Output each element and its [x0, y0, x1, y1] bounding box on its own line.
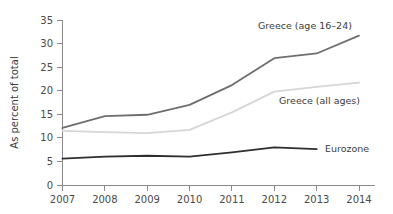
x-tick-label: 2011: [219, 194, 244, 205]
y-tick-label: 25: [40, 62, 53, 73]
series-line-3: [63, 147, 317, 158]
y-tick-marks: 05101520253035: [40, 15, 62, 191]
series-label-1: Greece (age 16–24): [258, 20, 352, 31]
y-tick-label: 15: [40, 109, 53, 120]
x-tick-label: 2012: [262, 194, 287, 205]
x-tick-label: 2009: [134, 194, 159, 205]
x-tick-label: 2007: [50, 194, 75, 205]
series-label-3: Eurozone: [325, 143, 369, 154]
y-tick-label: 5: [47, 156, 53, 167]
line-chart: 05101520253035 As percent of total 20072…: [0, 0, 393, 214]
y-tick-label: 30: [40, 38, 53, 49]
y-tick-label: 10: [40, 132, 53, 143]
series-line-1: [63, 36, 360, 128]
y-tick-label: 35: [40, 15, 53, 26]
y-axis-title: As percent of total: [9, 56, 20, 148]
chart-container: 05101520253035 As percent of total 20072…: [0, 0, 393, 214]
series-label-2: Greece (all ages): [279, 95, 360, 106]
x-axis-group: 20072008200920102011201220132014: [50, 186, 375, 206]
x-tick-label: 2008: [92, 194, 117, 205]
series-line-2: [63, 83, 360, 133]
y-axis-group: 05101520253035 As percent of total: [9, 15, 63, 191]
y-tick-label: 0: [47, 180, 53, 191]
y-tick-label: 20: [40, 85, 53, 96]
x-tick-marks: 20072008200920102011201220132014: [50, 186, 372, 206]
x-tick-label: 2014: [346, 194, 371, 205]
x-tick-label: 2010: [177, 194, 202, 205]
x-tick-label: 2013: [304, 194, 329, 205]
